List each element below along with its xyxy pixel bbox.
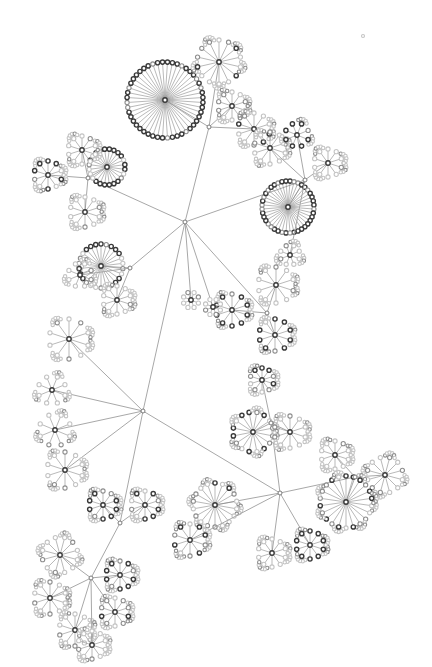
leaf-node[interactable] [89,513,92,516]
hub-node[interactable] [118,521,122,525]
leaf-node[interactable] [125,95,129,99]
leaf-node[interactable] [55,401,59,405]
leaf-node[interactable] [366,468,370,472]
leaf-node[interactable] [89,277,93,281]
leaf-node[interactable] [115,312,119,316]
leaf-node[interactable] [119,272,123,276]
leaf-node[interactable] [245,303,249,307]
leaf-node[interactable] [45,566,49,570]
leaf-node[interactable] [201,100,205,104]
leaf-node[interactable] [114,513,117,516]
node-cluster[interactable] [260,179,316,235]
leaf-node[interactable] [63,601,67,605]
leaf-node[interactable] [220,295,224,299]
leaf-node[interactable] [298,262,301,265]
leaf-node[interactable] [75,133,78,136]
leaf-node[interactable] [48,481,51,484]
leaf-node[interactable] [93,144,97,148]
leaf-node[interactable] [121,621,125,625]
cluster-center-node[interactable] [217,60,221,64]
leaf-node[interactable] [101,489,105,493]
leaf-node[interactable] [121,599,125,603]
leaf-node[interactable] [54,184,58,188]
node-cluster[interactable] [32,370,143,411]
leaf-node[interactable] [318,172,322,176]
leaf-node[interactable] [71,540,75,544]
leaf-node[interactable] [274,265,278,269]
leaf-node[interactable] [135,492,139,496]
leaf-node[interactable] [73,482,77,486]
leaf-node[interactable] [203,548,206,551]
leaf-node[interactable] [194,492,198,496]
leaf-node[interactable] [151,62,155,66]
leaf-node[interactable] [284,297,288,301]
leaf-node[interactable] [131,513,134,516]
leaf-node[interactable] [48,580,52,584]
leaf-node[interactable] [194,119,198,123]
leaf-node[interactable] [282,320,286,324]
leaf-node[interactable] [86,331,90,335]
leaf-node[interactable] [393,456,396,459]
leaf-node[interactable] [284,268,288,272]
leaf-node[interactable] [67,152,71,156]
leaf-node[interactable] [47,413,51,417]
leaf-node[interactable] [180,132,184,136]
leaf-node[interactable] [218,302,222,306]
leaf-node[interactable] [131,577,135,581]
leaf-node[interactable] [92,222,96,226]
leaf-node[interactable] [89,268,93,272]
leaf-node[interactable] [288,328,292,332]
leaf-node[interactable] [113,247,117,251]
leaf-node[interactable] [34,607,37,610]
leaf-node[interactable] [52,453,56,457]
leaf-node[interactable] [46,187,50,191]
leaf-node[interactable] [263,320,267,324]
hub-node[interactable] [207,125,211,129]
leaf-node[interactable] [52,482,56,486]
cluster-center-node[interactable] [273,333,277,337]
leaf-node[interactable] [59,317,62,320]
leaf-node[interactable] [253,388,257,392]
node-cluster[interactable] [46,411,143,491]
leaf-node[interactable] [118,559,122,563]
leaf-node[interactable] [55,321,59,325]
leaf-node[interactable] [174,549,177,552]
leaf-node[interactable] [131,583,134,586]
leaf-node[interactable] [130,507,134,511]
leaf-node[interactable] [63,450,67,454]
leaf-node[interactable] [284,262,288,266]
leaf-node[interactable] [182,522,185,525]
cluster-center-node[interactable] [188,538,192,542]
leaf-node[interactable] [74,198,78,202]
leaf-node[interactable] [358,478,362,482]
leaf-node[interactable] [143,517,147,521]
node-cluster[interactable] [36,531,91,579]
leaf-node[interactable] [123,287,127,291]
leaf-node[interactable] [96,148,99,151]
leaf-node[interactable] [218,114,221,117]
leaf-node[interactable] [62,173,65,176]
cluster-center-node[interactable] [73,628,77,632]
leaf-node[interactable] [283,151,287,155]
leaf-node[interactable] [257,277,261,281]
leaf-node[interactable] [67,268,71,272]
leaf-node[interactable] [197,115,201,119]
leaf-node[interactable] [100,210,103,213]
leaf-node[interactable] [79,353,83,357]
leaf-node[interactable] [91,176,95,180]
leaf-node[interactable] [288,414,292,418]
leaf-node[interactable] [224,292,227,295]
leaf-node[interactable] [33,177,37,181]
leaf-node[interactable] [243,100,247,104]
leaf-node[interactable] [248,387,251,390]
hub-node[interactable] [303,178,307,182]
leaf-node[interactable] [239,321,243,325]
leaf-node[interactable] [156,507,160,511]
leaf-node[interactable] [186,305,190,309]
leaf-node[interactable] [284,128,288,132]
leaf-node[interactable] [156,499,160,503]
leaf-node[interactable] [72,137,76,141]
cluster-center-node[interactable] [46,173,50,177]
leaf-node[interactable] [73,262,77,266]
leaf-node[interactable] [207,40,211,44]
